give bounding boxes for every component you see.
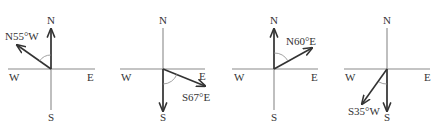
bearing-vector <box>274 48 312 69</box>
angle-arc <box>379 82 387 84</box>
angle-arc <box>274 53 288 61</box>
west-label: W <box>234 71 245 83</box>
compass-s67e: N S W E S67°E <box>120 14 211 123</box>
bearings-figure: N S W E N55°W N S W E S67°E N S W E N60°… <box>0 0 442 131</box>
south-label: S <box>48 111 54 123</box>
compass-n60e: N S W E N60°E <box>232 14 318 123</box>
bearing-label: S35°W <box>348 105 381 117</box>
north-label: N <box>159 14 167 26</box>
north-label: N <box>47 14 55 26</box>
west-label: W <box>121 71 132 83</box>
south-label: S <box>160 111 166 123</box>
compass-s35w: N S W E S35°W <box>344 14 431 123</box>
compass-n55w: N S W E N55°W <box>5 14 95 123</box>
west-label: W <box>345 71 356 83</box>
bearing-vector <box>362 69 387 104</box>
north-label: N <box>383 14 391 26</box>
east-label: E <box>424 71 431 83</box>
east-label: E <box>311 71 318 83</box>
bearing-label: N60°E <box>286 35 316 47</box>
west-label: W <box>9 71 20 83</box>
bearing-vector <box>17 45 51 69</box>
north-label: N <box>270 14 278 26</box>
east-label: E <box>199 70 206 82</box>
south-label: S <box>384 111 390 123</box>
bearing-label: N55°W <box>5 30 39 42</box>
east-label: E <box>87 71 94 83</box>
south-label: S <box>271 111 277 123</box>
angle-arc <box>40 55 52 61</box>
bearing-label: S67°E <box>182 91 211 103</box>
angle-arc <box>163 74 177 84</box>
